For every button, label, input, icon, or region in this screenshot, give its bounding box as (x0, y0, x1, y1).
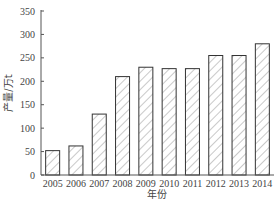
y-tick-label: 350 (20, 6, 35, 17)
y-tick-label: 150 (20, 99, 35, 110)
x-tick-label: 2010 (159, 178, 179, 189)
y-tick-label: 300 (20, 29, 35, 40)
x-tick-label: 2007 (89, 178, 109, 189)
bar-2009 (139, 67, 153, 175)
x-tick-label: 2014 (252, 178, 272, 189)
y-tick-label: 50 (25, 146, 35, 157)
x-tick-label: 2011 (183, 178, 203, 189)
x-axis-tick-labels: 2005200620072008200920102011201220132014 (43, 178, 273, 189)
y-tick-label: 0 (30, 170, 35, 181)
bar-2007 (92, 114, 106, 175)
bar-2008 (116, 77, 130, 175)
bar-2006 (69, 146, 83, 175)
bar-2011 (185, 69, 199, 175)
bar-chart: 050100150200250300350 200520062007200820… (0, 0, 278, 204)
bars (46, 44, 270, 175)
y-axis-title: 产量/万t (2, 74, 14, 111)
bar-2010 (162, 69, 176, 175)
x-axis-title: 年份 (147, 188, 167, 200)
x-tick-label: 2009 (136, 178, 156, 189)
y-tick-label: 250 (20, 52, 35, 63)
x-tick-label: 2012 (206, 178, 226, 189)
y-tick-label: 100 (20, 123, 35, 134)
x-tick-label: 2005 (43, 178, 63, 189)
bar-2013 (232, 56, 246, 175)
y-axis-ticks: 050100150200250300350 (20, 6, 44, 181)
x-tick-label: 2006 (66, 178, 86, 189)
bar-2012 (209, 56, 223, 175)
x-tick-label: 2013 (229, 178, 249, 189)
bar-2014 (255, 44, 269, 175)
bar-2005 (46, 151, 60, 175)
x-tick-label: 2008 (113, 178, 133, 189)
y-tick-label: 200 (20, 76, 35, 87)
